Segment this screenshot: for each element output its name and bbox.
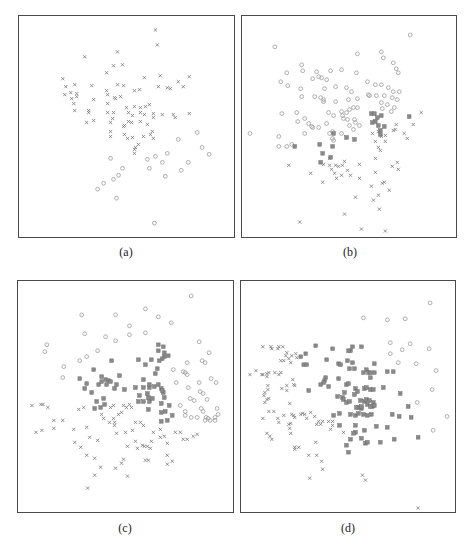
- cross-marker: [333, 172, 336, 175]
- circle-marker: [340, 132, 344, 136]
- cross-marker: [120, 411, 123, 414]
- square-marker: [369, 405, 373, 409]
- square-marker: [407, 115, 411, 119]
- cross-marker: [148, 103, 151, 106]
- cross-marker: [305, 417, 308, 420]
- cross-marker: [315, 423, 318, 426]
- circle-marker: [215, 407, 219, 411]
- cross-marker: [86, 487, 89, 490]
- square-marker: [347, 382, 351, 386]
- square-marker: [92, 368, 96, 372]
- cross-marker: [131, 136, 134, 139]
- square-marker: [379, 441, 383, 445]
- square-marker: [383, 125, 387, 129]
- cross-marker: [92, 119, 95, 122]
- cross-marker: [117, 413, 120, 416]
- circle-marker: [299, 87, 303, 91]
- circle-marker: [200, 146, 204, 150]
- square-marker: [146, 392, 150, 396]
- cross-marker: [277, 421, 280, 424]
- square-marker: [327, 385, 331, 389]
- circle-marker: [214, 381, 218, 385]
- cross-marker: [128, 403, 131, 406]
- cross-marker: [120, 462, 123, 465]
- circle-marker: [61, 376, 65, 380]
- circle-marker: [400, 348, 404, 352]
- cross-marker: [136, 447, 139, 450]
- square-marker: [386, 370, 390, 374]
- cross-marker: [127, 120, 130, 123]
- cross-marker: [116, 83, 119, 86]
- circle-marker: [394, 67, 398, 71]
- square-marker: [147, 408, 151, 412]
- circle-marker: [301, 69, 305, 73]
- cross-marker: [354, 196, 357, 199]
- cross-marker: [52, 427, 55, 430]
- circle-marker: [362, 316, 366, 320]
- cross-marker: [40, 429, 43, 432]
- square-marker: [105, 383, 109, 387]
- cross-marker: [106, 111, 109, 114]
- cross-marker: [360, 227, 363, 230]
- circle-marker: [117, 173, 121, 177]
- circle-marker: [373, 83, 377, 87]
- cross-marker: [361, 474, 364, 477]
- circle-marker: [205, 398, 209, 402]
- circle-marker: [179, 168, 183, 172]
- circle-marker: [347, 98, 351, 102]
- cross-marker: [321, 181, 324, 184]
- cross-marker: [99, 466, 102, 469]
- circle-marker: [350, 90, 354, 94]
- circle-marker: [277, 145, 281, 149]
- cross-marker: [46, 406, 49, 409]
- square-marker: [338, 412, 342, 416]
- cross-marker: [182, 85, 185, 88]
- cross-marker: [179, 431, 182, 434]
- cross-marker: [254, 369, 257, 372]
- cross-marker: [196, 433, 199, 436]
- square-marker: [123, 388, 127, 392]
- square-marker: [168, 404, 172, 408]
- square-marker: [158, 359, 162, 363]
- cross-marker: [159, 436, 162, 439]
- square-marker: [337, 377, 341, 381]
- cross-marker: [340, 174, 343, 177]
- cross-marker: [130, 406, 133, 409]
- cross-marker: [315, 454, 318, 457]
- cross-marker: [137, 143, 140, 146]
- circle-marker: [201, 392, 205, 396]
- square-marker: [372, 388, 376, 392]
- scatter-points-c: [18, 281, 233, 512]
- cross-marker: [161, 113, 164, 116]
- cross-marker: [163, 435, 166, 438]
- cross-marker: [88, 436, 91, 439]
- cross-marker: [109, 121, 112, 124]
- square-marker: [348, 400, 352, 404]
- cross-marker: [149, 447, 152, 450]
- cross-marker: [125, 406, 128, 409]
- cross-marker: [293, 448, 296, 451]
- cross-marker: [126, 445, 129, 448]
- cross-marker: [61, 77, 64, 80]
- cross-marker: [126, 137, 129, 140]
- cross-marker: [331, 420, 334, 423]
- circle-marker: [379, 50, 383, 54]
- cross-marker: [379, 149, 382, 152]
- circle-marker: [327, 111, 331, 115]
- circle-marker: [303, 117, 307, 121]
- circle-marker: [96, 187, 100, 191]
- circle-marker: [189, 294, 193, 298]
- square-marker: [304, 352, 308, 356]
- cross-marker: [138, 88, 141, 91]
- cross-marker: [374, 171, 377, 174]
- cross-marker: [144, 459, 147, 462]
- cross-marker: [374, 157, 377, 160]
- cross-marker: [174, 431, 177, 434]
- scatter-points-b: [242, 16, 456, 237]
- square-marker: [362, 413, 366, 417]
- cross-marker: [106, 102, 109, 105]
- square-marker: [151, 397, 155, 401]
- circle-marker: [366, 80, 370, 84]
- square-marker: [366, 441, 370, 445]
- circle-marker: [183, 414, 187, 418]
